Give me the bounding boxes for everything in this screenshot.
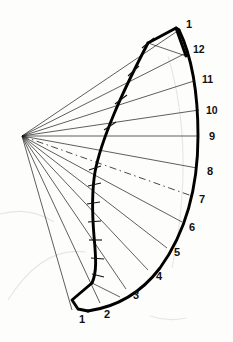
arc-label-1-bottom: 1 (79, 313, 85, 325)
arc-label-4: 4 (156, 270, 163, 282)
arc-label-8: 8 (207, 165, 213, 177)
arc-label-7: 7 (199, 193, 205, 205)
tick-mark (91, 258, 104, 259)
arc-label-1-top: 1 (186, 18, 192, 30)
radial-ray-8 (22, 136, 197, 168)
arc-label-5: 5 (174, 246, 180, 258)
outer-arc (88, 30, 198, 311)
bottom-cap-outer-line (72, 300, 78, 309)
arc-label-10: 10 (206, 104, 218, 116)
arc-label-3: 3 (133, 289, 139, 301)
arc-label-9: 9 (209, 130, 215, 142)
radial-ray-12 (22, 53, 186, 136)
inner-developed-curve (92, 43, 148, 283)
development-diagram: 1 12 11 10 9 8 7 6 5 4 3 2 1 (0, 0, 233, 342)
arc-label-6: 6 (189, 221, 195, 233)
arc-label-12: 12 (193, 43, 205, 55)
arc-label-11: 11 (202, 73, 213, 85)
radial-ray-7-dashed (22, 136, 192, 196)
tick-mark (88, 221, 101, 222)
bottom-cap-panel (72, 283, 92, 311)
arc-label-2: 2 (104, 308, 110, 320)
drawing-canvas: 1 12 11 10 9 8 7 6 5 4 3 2 1 (0, 0, 233, 342)
radial-ray-2 (22, 136, 100, 303)
top-cap-inner-line (148, 43, 186, 56)
